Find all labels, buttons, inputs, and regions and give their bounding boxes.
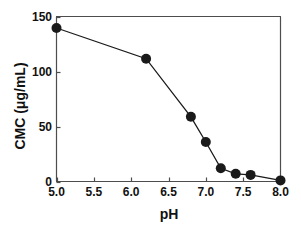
chart-figure: 050100150 5.05.56.06.57.07.58.0 CMC (μg/…	[0, 0, 301, 232]
x-tick-label: 6.5	[149, 186, 189, 198]
x-tick-label: 7.0	[186, 186, 226, 198]
x-tick-label: 8.0	[261, 186, 301, 198]
y-axis-title: CMC (μg/mL)	[9, 11, 31, 201]
x-tick-label: 7.5	[223, 186, 263, 198]
x-tick-label: 6.0	[111, 186, 151, 198]
x-axis-title: pH	[56, 206, 282, 222]
x-tick-label-layer: 5.05.56.06.57.07.58.0	[0, 0, 301, 232]
x-tick-label: 5.0	[37, 186, 77, 198]
x-tick-label: 5.5	[74, 186, 114, 198]
